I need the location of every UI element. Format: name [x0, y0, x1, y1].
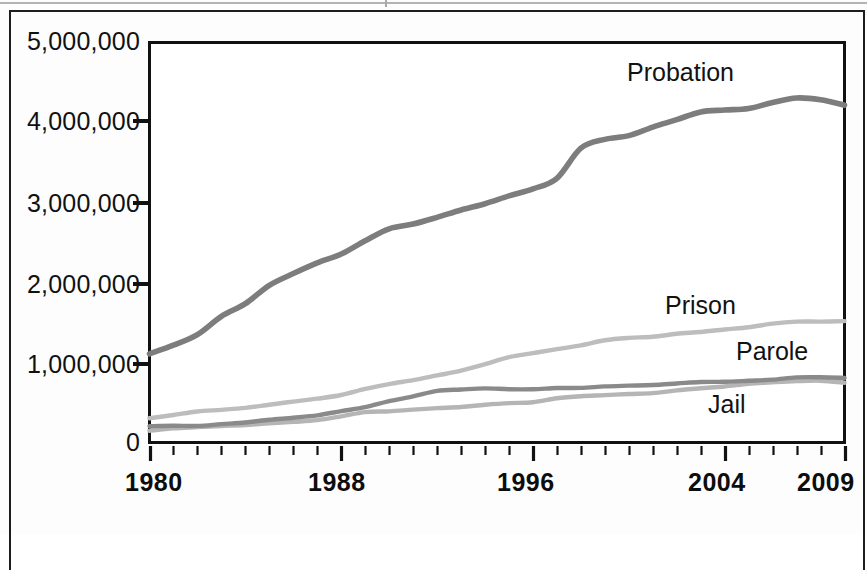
series-label-parole: Parole [736, 337, 808, 366]
scan-artifact-tick [385, 0, 387, 7]
y-axis-label: 5,000,000 [4, 27, 140, 56]
y-axis-label: 0 [4, 428, 140, 457]
y-axis-label: 1,000,000 [4, 350, 140, 379]
y-axis-label: 2,000,000 [4, 270, 140, 299]
series-label-jail: Jail [708, 390, 746, 419]
x-axis-label: 1980 [125, 468, 183, 497]
y-axis-labels: 5,000,000 4,000,000 3,000,000 2,000,000 … [0, 0, 140, 535]
x-axis-label: 2004 [688, 468, 746, 497]
y-axis-label: 3,000,000 [4, 189, 140, 218]
x-axis-label: 1996 [497, 468, 555, 497]
series-label-prison: Prison [665, 291, 736, 320]
x-axis-label: 1988 [308, 468, 366, 497]
series-label-probation: Probation [627, 58, 734, 87]
plot-area [148, 41, 846, 444]
x-axis-label: 2009 [797, 468, 855, 497]
y-axis-label: 4,000,000 [4, 107, 140, 136]
